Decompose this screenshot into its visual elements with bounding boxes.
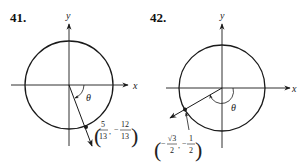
y-numerator: 1 (189, 134, 193, 143)
point-coordinates: ( − √3 2 , − 1 2 ) (154, 134, 202, 162)
angle-arc (75, 85, 84, 98)
comma: , (178, 141, 180, 150)
theta-label: θ (231, 102, 236, 113)
y-numerator: 12 (121, 120, 129, 129)
x-axis-label: x (291, 83, 297, 94)
unit-circle-diagrams: 41. x y θ ( 5 13 , − 12 13 ) 42. (0, 0, 301, 167)
y-denominator: 2 (189, 146, 193, 155)
point-coordinates: ( 5 13 , − 12 13 ) (94, 120, 138, 148)
y-sign: − (182, 139, 187, 148)
y-axis-label: y (219, 10, 225, 21)
y-sign: − (114, 125, 119, 134)
terminal-ray (170, 88, 222, 118)
x-denominator: 2 (170, 146, 174, 155)
point-on-circle (84, 125, 88, 129)
x-sign: − (161, 139, 166, 148)
x-denominator: 13 (99, 132, 107, 141)
figure-42: 42. x y θ ( − √3 2 , − 1 2 ) (150, 10, 297, 162)
x-axis-label: x (132, 80, 138, 91)
theta-label: θ (86, 92, 91, 103)
figure-41: 41. x y θ ( 5 13 , − 12 13 ) (10, 10, 138, 148)
figure-number: 42. (150, 10, 166, 25)
figure-number: 41. (10, 10, 26, 25)
point-on-circle (183, 108, 187, 112)
x-numerator: 5 (101, 120, 105, 129)
y-axis-label: y (65, 10, 71, 21)
x-numerator: √3 (168, 134, 176, 143)
right-paren: ) (195, 137, 202, 162)
y-denominator: 13 (121, 132, 129, 141)
right-paren: ) (131, 123, 138, 148)
comma: , (109, 127, 111, 136)
